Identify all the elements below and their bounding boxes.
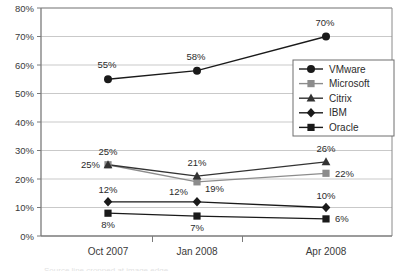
data-label: 70% bbox=[315, 17, 335, 28]
data-point-marker bbox=[322, 170, 329, 177]
data-label: 58% bbox=[186, 51, 206, 62]
data-point-marker bbox=[104, 210, 111, 217]
y-tick-label: 80% bbox=[15, 3, 35, 14]
footer-cropped-text: Source line cropped at image edge bbox=[44, 266, 254, 271]
data-label: 7% bbox=[190, 222, 204, 233]
data-label: 22% bbox=[335, 168, 355, 179]
data-point-marker bbox=[322, 33, 330, 41]
chart-canvas: 0%10%20%30%40%50%60%70%80%Oct 2007Jan 20… bbox=[0, 0, 401, 272]
data-label: 25% bbox=[81, 159, 101, 170]
legend-label: Microsoft bbox=[329, 78, 370, 89]
data-point-marker bbox=[193, 67, 201, 75]
data-label: 8% bbox=[101, 219, 115, 230]
data-label: 12% bbox=[169, 186, 189, 197]
data-point-marker bbox=[307, 124, 314, 131]
data-label: 25% bbox=[98, 146, 118, 157]
data-label: 55% bbox=[97, 59, 117, 70]
data-point-marker bbox=[322, 215, 329, 222]
y-tick-label: 20% bbox=[15, 174, 35, 185]
line-chart: 0%10%20%30%40%50%60%70%80%Oct 2007Jan 20… bbox=[0, 0, 401, 272]
y-tick-label: 50% bbox=[15, 88, 35, 99]
data-label: 12% bbox=[98, 184, 118, 195]
legend-label: Oracle bbox=[329, 122, 359, 133]
series-line-citrix bbox=[108, 162, 326, 176]
data-point-marker bbox=[104, 197, 113, 207]
data-label: 26% bbox=[316, 143, 336, 154]
x-tick-label: Jan 2008 bbox=[176, 246, 218, 257]
data-point-marker bbox=[193, 197, 202, 207]
y-tick-label: 30% bbox=[15, 145, 35, 156]
data-label: 6% bbox=[335, 213, 349, 224]
data-point-marker bbox=[193, 212, 200, 219]
y-tick-label: 0% bbox=[20, 231, 34, 242]
data-point-marker bbox=[322, 203, 331, 213]
x-tick-label: Oct 2007 bbox=[88, 246, 129, 257]
x-tick-label: Apr 2008 bbox=[306, 246, 347, 257]
y-tick-label: 10% bbox=[15, 202, 35, 213]
chart-screenshot: 0%10%20%30%40%50%60%70%80%Oct 2007Jan 20… bbox=[0, 0, 401, 272]
data-label: 10% bbox=[316, 190, 336, 201]
data-label: 21% bbox=[187, 157, 207, 168]
y-tick-label: 40% bbox=[15, 117, 35, 128]
legend-label: VMware bbox=[329, 64, 366, 75]
data-label: 19% bbox=[205, 183, 225, 194]
data-point-marker bbox=[307, 65, 315, 73]
data-point-marker bbox=[322, 157, 331, 165]
series-line-ibm bbox=[108, 202, 326, 208]
legend-label: IBM bbox=[329, 107, 347, 118]
legend-label: Citrix bbox=[329, 93, 352, 104]
series-line-oracle bbox=[108, 213, 326, 219]
data-point-marker bbox=[307, 80, 314, 87]
y-tick-label: 70% bbox=[15, 31, 35, 42]
data-point-marker bbox=[104, 75, 112, 83]
y-tick-label: 60% bbox=[15, 60, 35, 71]
